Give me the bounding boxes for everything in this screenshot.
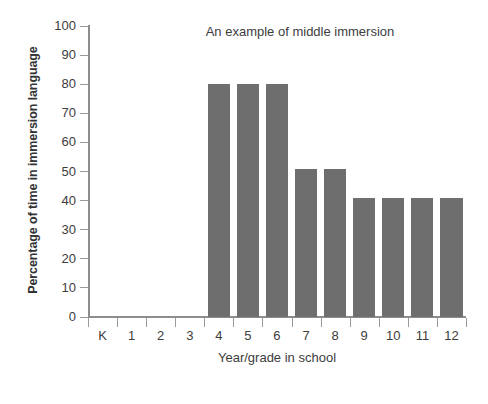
x-tick-label: 9 bbox=[350, 328, 379, 343]
y-tick-mark bbox=[80, 142, 88, 143]
x-tick-mark bbox=[204, 318, 205, 327]
x-tick-label: K bbox=[88, 328, 117, 343]
bar-10 bbox=[382, 198, 404, 317]
x-tick-label: 3 bbox=[175, 328, 204, 343]
chart-title: An example of middle immersion bbox=[150, 22, 450, 42]
x-tick-mark bbox=[350, 318, 351, 327]
x-tick-label: 4 bbox=[204, 328, 233, 343]
x-axis-title: Year/grade in school bbox=[88, 348, 466, 368]
x-tick-label: 1 bbox=[117, 328, 146, 343]
y-tick-label: 40 bbox=[16, 194, 76, 207]
x-tick-label: 10 bbox=[379, 328, 408, 343]
x-tick-label: 2 bbox=[146, 328, 175, 343]
bar-11 bbox=[411, 198, 433, 317]
y-tick-mark bbox=[80, 26, 88, 27]
bar-8 bbox=[324, 169, 346, 317]
x-tick-mark bbox=[408, 318, 409, 327]
x-tick-mark bbox=[88, 318, 89, 327]
y-tick-mark bbox=[80, 229, 88, 230]
y-tick-mark bbox=[80, 171, 88, 172]
x-tick-label: 6 bbox=[262, 328, 291, 343]
x-tick-mark bbox=[437, 318, 438, 327]
x-tick-mark bbox=[233, 318, 234, 327]
y-tick-label: 60 bbox=[16, 135, 76, 148]
y-tick-label: 20 bbox=[16, 252, 76, 265]
chart-figure: Percentage of time in immersion language… bbox=[0, 0, 488, 404]
bar-6 bbox=[266, 84, 288, 317]
x-tick-mark bbox=[262, 318, 263, 327]
bar-9 bbox=[353, 198, 375, 317]
x-tick-mark bbox=[175, 318, 176, 327]
y-tick-mark bbox=[80, 317, 88, 318]
x-tick-mark bbox=[117, 318, 118, 327]
y-tick-label: 90 bbox=[16, 48, 76, 61]
x-tick-label: 11 bbox=[408, 328, 437, 343]
x-tick-label: 7 bbox=[292, 328, 321, 343]
y-tick-label: 70 bbox=[16, 106, 76, 119]
x-tick-label: 12 bbox=[437, 328, 466, 343]
y-tick-mark bbox=[80, 55, 88, 56]
x-tick-mark bbox=[321, 318, 322, 327]
y-tick-mark bbox=[80, 258, 88, 259]
bar-12 bbox=[440, 198, 462, 317]
y-tick-mark bbox=[80, 113, 88, 114]
x-tick-mark bbox=[146, 318, 147, 327]
x-tick-label: 5 bbox=[233, 328, 262, 343]
y-tick-label: 30 bbox=[16, 223, 76, 236]
y-tick-label: 50 bbox=[16, 165, 76, 178]
x-tick-mark bbox=[466, 318, 467, 327]
y-tick-label: 0 bbox=[16, 310, 76, 323]
y-tick-label: 80 bbox=[16, 77, 76, 90]
x-tick-mark bbox=[292, 318, 293, 327]
y-tick-label: 100 bbox=[16, 19, 76, 32]
bar-5 bbox=[237, 84, 259, 317]
y-tick-mark bbox=[80, 84, 88, 85]
x-tick-mark bbox=[379, 318, 380, 327]
x-tick-label: 8 bbox=[321, 328, 350, 343]
bar-7 bbox=[295, 169, 317, 317]
bar-4 bbox=[208, 84, 230, 317]
y-tick-mark bbox=[80, 200, 88, 201]
y-axis-line bbox=[88, 25, 90, 318]
y-tick-label: 10 bbox=[16, 281, 76, 294]
y-tick-mark bbox=[80, 287, 88, 288]
